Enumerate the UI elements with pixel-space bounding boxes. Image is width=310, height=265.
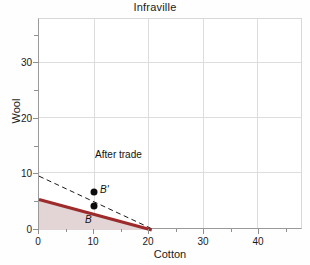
point-b-marker bbox=[90, 202, 97, 209]
x-tick-label-40: 40 bbox=[252, 236, 263, 247]
plot-inner: B' B After trade bbox=[39, 19, 301, 228]
y-tick-minor-15 bbox=[34, 146, 38, 147]
y-tick-label-10: 10 bbox=[8, 168, 32, 179]
x-tick-major-40 bbox=[258, 229, 259, 234]
x-tick-minor-35 bbox=[231, 229, 232, 232]
y-tick-major-10 bbox=[33, 173, 38, 174]
y-tick-major-0 bbox=[33, 229, 38, 230]
point-b-prime-marker bbox=[90, 188, 97, 195]
x-tick-minor-45 bbox=[286, 229, 287, 232]
plot-area: B' B After trade bbox=[38, 18, 302, 229]
after-trade-label: After trade bbox=[95, 149, 142, 160]
point-b-label: B bbox=[85, 214, 92, 225]
x-tick-minor-5 bbox=[66, 229, 67, 232]
x-tick-label-0: 0 bbox=[35, 236, 41, 247]
x-tick-minor-25 bbox=[176, 229, 177, 232]
chart-title: Infraville bbox=[0, 1, 310, 13]
point-b-prime-label: B' bbox=[100, 184, 109, 195]
x-tick-minor-15 bbox=[121, 229, 122, 232]
x-tick-major-0 bbox=[38, 229, 39, 234]
chart-figure: Infraville B' B After trade 01020 bbox=[0, 0, 310, 265]
x-tick-label-20: 20 bbox=[142, 236, 153, 247]
x-tick-label-30: 30 bbox=[197, 236, 208, 247]
x-tick-major-30 bbox=[203, 229, 204, 234]
data-layer bbox=[39, 19, 303, 230]
y-tick-label-0: 0 bbox=[8, 224, 32, 235]
y-tick-minor-25 bbox=[34, 90, 38, 91]
x-axis-label: Cotton bbox=[38, 248, 302, 260]
y-tick-label-30: 30 bbox=[8, 57, 32, 68]
y-tick-major-30 bbox=[33, 62, 38, 63]
x-tick-major-10 bbox=[93, 229, 94, 234]
y-tick-minor-35 bbox=[34, 35, 38, 36]
y-tick-minor-5 bbox=[34, 201, 38, 202]
x-tick-major-20 bbox=[148, 229, 149, 234]
y-axis-label: Wool bbox=[10, 81, 22, 141]
x-tick-label-10: 10 bbox=[87, 236, 98, 247]
y-tick-major-20 bbox=[33, 118, 38, 119]
